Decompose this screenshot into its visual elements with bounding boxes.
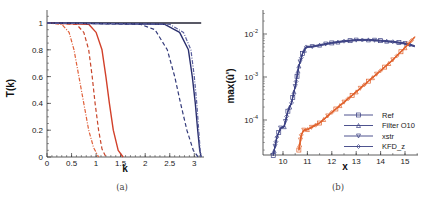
x-tick-label: 13 [352, 157, 361, 166]
x-tick-label: 14 [376, 157, 385, 166]
legend-entry: Filter O10 [344, 121, 415, 130]
caption-b: (b) [332, 182, 344, 192]
legend-label: Ref [382, 111, 395, 120]
y-tick-label: 10-2 [244, 28, 258, 39]
y-axis-label: max(û') [225, 68, 236, 103]
legend-label: Filter O10 [382, 121, 415, 130]
caption-a: (a) [116, 182, 128, 192]
x-tick-label: 1 [94, 159, 99, 168]
x-axis-label: x [342, 161, 348, 172]
series-blue-dashdot [47, 23, 201, 157]
x-axis-label: k [122, 163, 128, 174]
x-tick-label: 15 [401, 157, 410, 166]
series-blue-solid [47, 23, 201, 157]
x-tick-label: 3 [192, 159, 197, 168]
x-tick-label: 0.5 [66, 159, 78, 168]
x-tick-label: 2.5 [164, 159, 176, 168]
panel-b-max-amplitude: 10111213141510-410-310-2 RefFilter O10xs… [225, 10, 418, 192]
panel-a-transfer-function: 00.511.522.5300.20.40.60.81 k T(k) (a) [5, 10, 204, 192]
y-tick-label: 10-3 [244, 71, 258, 82]
y-tick-label: 0.2 [32, 126, 44, 135]
y-tick-label: 0.6 [32, 73, 44, 82]
x-tick-label: 0 [45, 159, 50, 168]
series-red-solid [47, 23, 123, 157]
legend-entry: xstr [344, 132, 395, 141]
figure: 00.511.522.5300.20.40.60.81 k T(k) (a) 1… [0, 0, 433, 202]
y-tick-label: 0 [39, 153, 44, 162]
x-tick-label: 11 [303, 157, 312, 166]
series-orange-group [297, 36, 415, 152]
y-tick-label: 0.8 [32, 46, 44, 55]
legend-label: xstr [382, 132, 395, 141]
legend: RefFilter O10xstrKFD_z [344, 111, 415, 152]
series-blue-dashed [47, 23, 198, 157]
series-red-dashdot [47, 23, 99, 157]
y-tick-label: 0.4 [32, 99, 44, 108]
x-tick-label: 12 [327, 157, 336, 166]
legend-entry: KFD_z [344, 142, 405, 151]
legend-label: KFD_z [382, 142, 405, 151]
x-tick-label: 10 [279, 157, 288, 166]
y-axis-label: T(k) [5, 79, 16, 97]
x-tick-label: 2 [143, 159, 148, 168]
legend-entry: Ref [344, 111, 395, 120]
y-tick-label: 10-4 [244, 114, 258, 125]
y-tick-label: 1 [39, 19, 44, 28]
series-red-dashed [47, 23, 106, 157]
